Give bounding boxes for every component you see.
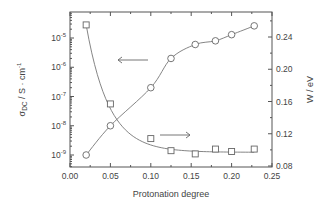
y-left-tick-label: 10-8	[51, 120, 66, 131]
sigma-circle-marker	[212, 38, 219, 45]
sigma-circle-marker	[228, 31, 235, 38]
y-left-tick-label: 10-7	[51, 91, 66, 102]
y-right-tick-label: 0.12	[276, 129, 293, 139]
x-tick-label: 0.05	[102, 171, 119, 181]
x-tick-label: 0.20	[223, 171, 240, 181]
sigma-circle-marker	[148, 84, 155, 91]
y-left-tick-label: 10-5	[51, 32, 66, 43]
x-tick-label: 0.10	[143, 171, 160, 181]
chart: 0.000.050.100.150.200.2510-910-810-710-6…	[0, 0, 320, 205]
w-square-marker	[212, 146, 218, 152]
y-right-tick-label: 0.24	[276, 32, 293, 42]
y-left-tick-label: 10-6	[51, 61, 66, 72]
y-left-axis-label: σDC / S · cm-1	[16, 62, 28, 116]
w-square-marker	[168, 148, 174, 154]
y-right-tick-label: 0.20	[276, 64, 293, 74]
sigma-circle-marker	[107, 122, 114, 129]
sigma-circle-marker	[83, 152, 90, 159]
sigma-circle-marker	[168, 55, 175, 62]
w-square-marker	[148, 136, 154, 142]
y-left-tick-label: 10-9	[51, 149, 66, 160]
x-tick-label: 0.00	[62, 171, 79, 181]
x-axis-label: Protonation degree	[133, 189, 210, 199]
x-tick-label: 0.25	[264, 171, 281, 181]
y-right-tick-label: 0.16	[276, 97, 293, 107]
w-square-marker	[192, 151, 198, 157]
sigma-circle-marker	[251, 23, 258, 30]
w-square-marker	[229, 148, 235, 154]
x-tick-label: 0.15	[183, 171, 200, 181]
sigma-circle-marker	[192, 41, 199, 48]
w-square-marker	[107, 101, 113, 107]
plot-frame	[70, 12, 272, 167]
w-fit-curve	[86, 25, 254, 152]
w-square-marker	[251, 146, 257, 152]
y-right-tick-label: 0.08	[276, 161, 293, 171]
sigma-curve	[86, 26, 254, 155]
w-square-marker	[83, 22, 89, 28]
y-right-axis-label: W / eV	[305, 76, 315, 103]
